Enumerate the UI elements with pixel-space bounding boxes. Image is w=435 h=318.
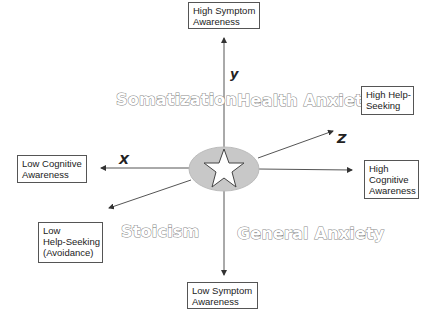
low-symptom-awareness-box: Low Symptom Awareness xyxy=(187,282,258,309)
box-line: Low Cognitive xyxy=(22,158,82,169)
box-line: Help-Seeking xyxy=(43,236,98,247)
low-cognitive-awareness-box: Low Cognitive Awareness xyxy=(17,155,87,183)
box-line: High Help- xyxy=(366,89,409,100)
box-line: Awareness xyxy=(22,169,82,180)
y-axis-label: y xyxy=(230,66,239,81)
z-axis-label: Z xyxy=(336,131,347,146)
box-line: Low xyxy=(43,225,98,236)
x-axis-right xyxy=(258,169,352,170)
high-symptom-awareness-box: High Symptom Awareness xyxy=(188,2,260,29)
quadrant-stoicism: Stoicism xyxy=(121,222,199,241)
z-axis-down-left xyxy=(109,180,191,208)
low-help-seeking-box: Low Help-Seeking (Avoidance) xyxy=(38,222,103,263)
quadrant-somatization: Somatization xyxy=(116,90,237,109)
box-line: Seeking xyxy=(366,100,409,111)
high-help-seeking-box: High Help- Seeking xyxy=(361,86,414,115)
box-line: High xyxy=(369,163,414,174)
box-line: Awareness xyxy=(369,185,414,196)
box-line: (Avoidance) xyxy=(43,247,98,258)
box-line: Low Symptom xyxy=(192,285,253,296)
box-line: Cognitive xyxy=(369,174,414,185)
box-line: Awareness xyxy=(192,296,253,307)
three-axis-diagram: y Z X Somatization Health Anxiety Stoici… xyxy=(0,0,435,318)
z-axis-up-right xyxy=(258,131,333,158)
quadrant-general-anxiety: General Anxiety xyxy=(237,224,385,243)
high-cognitive-awareness-box: High Cognitive Awareness xyxy=(364,160,419,199)
quadrant-health-anxiety: Health Anxiety xyxy=(237,91,374,110)
x-axis-label: X xyxy=(118,152,130,167)
box-line: High Symptom xyxy=(193,5,255,16)
box-line: Awareness xyxy=(193,16,255,27)
